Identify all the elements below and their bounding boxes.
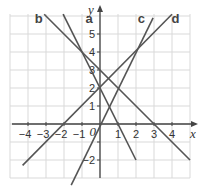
y-tick-label: 1 <box>89 100 95 112</box>
coordinate-plane: −4−3−2−1123454321−20xy abcd <box>0 0 202 191</box>
x-axis-label: x <box>189 126 196 141</box>
x-tick-label: −2 <box>55 128 68 140</box>
y-tick-label: 4 <box>89 46 95 58</box>
line-label-a: a <box>86 11 94 26</box>
axes <box>12 5 198 178</box>
x-tick-label: −3 <box>37 128 50 140</box>
line-label-c: c <box>138 11 145 26</box>
x-tick-label: −4 <box>19 128 32 140</box>
line-d <box>23 14 172 165</box>
x-tick-label: 3 <box>151 128 157 140</box>
y-axis-arrow-icon <box>97 5 103 12</box>
x-tick-label: 4 <box>169 128 175 140</box>
x-tick-label: 2 <box>133 128 139 140</box>
line-label-b: b <box>35 11 43 26</box>
x-tick-label: −1 <box>73 128 86 140</box>
line-label-d: d <box>172 11 180 26</box>
y-tick-label: 5 <box>89 28 95 40</box>
line-labels: abcd <box>35 11 180 26</box>
